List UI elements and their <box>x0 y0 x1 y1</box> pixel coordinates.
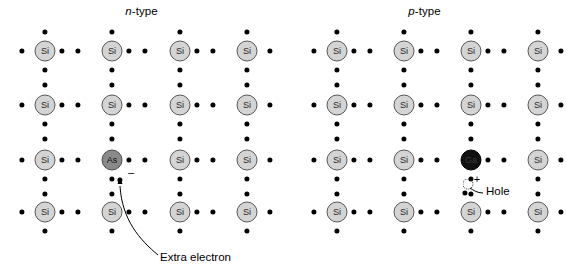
atom-si-r0-c1: Si <box>394 41 415 62</box>
atom-si-r1-c3: Si <box>528 95 549 116</box>
atom-as-r2-c1: As <box>102 150 123 171</box>
atom-si-r3-c3: Si <box>237 202 258 223</box>
atom-si-r1-c1: Si <box>102 95 123 116</box>
atom-si-r1-c2: Si <box>461 95 482 116</box>
atom-si-r1-c2: Si <box>170 95 191 116</box>
atom-ga-r2-c2: Ga <box>461 150 482 171</box>
atom-si-r2-c0: Si <box>35 150 56 171</box>
figure-canvas: n-type p-type SiSiSiSiSiSiSiSiSiAsSiSiSi… <box>0 0 566 272</box>
atom-si-r0-c0: Si <box>327 41 348 62</box>
atom-si-r3-c1: Si <box>394 202 415 223</box>
atom-si-r1-c0: Si <box>327 95 348 116</box>
atom-si-r2-c3: Si <box>237 150 258 171</box>
atom-si-r3-c1: Si <box>102 202 123 223</box>
atom-si-r3-c0: Si <box>35 202 56 223</box>
panel-p-type: p-type <box>283 0 566 272</box>
panel-title-n-type: n-type <box>0 4 283 18</box>
hole-ring-icon <box>463 179 474 190</box>
atom-si-r1-c3: Si <box>237 95 258 116</box>
panel-title-p-type: p-type <box>283 4 566 18</box>
atom-si-r0-c1: Si <box>102 41 123 62</box>
atom-si-r0-c2: Si <box>461 41 482 62</box>
panel-title-p-rest: -type <box>415 5 441 17</box>
atom-si-r2-c1: Si <box>394 150 415 171</box>
atom-si-r0-c0: Si <box>35 41 56 62</box>
atom-si-r2-c0: Si <box>327 150 348 171</box>
panel-title-n-rest: -type <box>132 5 158 17</box>
atom-si-r2-c3: Si <box>528 150 549 171</box>
positive-charge-sign: + <box>474 174 480 185</box>
atom-si-r3-c2: Si <box>461 202 482 223</box>
atom-si-r2-c2: Si <box>170 150 191 171</box>
extra-electron-label: Extra electron <box>160 251 231 264</box>
atom-si-r1-c1: Si <box>394 95 415 116</box>
negative-charge-sign: – <box>128 167 134 178</box>
atom-si-r0-c3: Si <box>237 41 258 62</box>
hole-label: Hole <box>486 185 510 198</box>
atom-si-r3-c2: Si <box>170 202 191 223</box>
atom-si-r1-c0: Si <box>35 95 56 116</box>
atom-si-r0-c3: Si <box>528 41 549 62</box>
atom-si-r3-c3: Si <box>528 202 549 223</box>
atom-si-r0-c2: Si <box>170 41 191 62</box>
atom-si-r3-c0: Si <box>327 202 348 223</box>
